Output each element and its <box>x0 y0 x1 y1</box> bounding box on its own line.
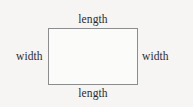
rectangle-shape <box>48 28 138 85</box>
label-left-width: width <box>16 50 43 62</box>
label-bottom-length: length <box>0 87 193 99</box>
label-right-width: width <box>142 50 169 62</box>
rectangle-diagram: length width width length <box>0 0 193 107</box>
label-top-length: length <box>0 13 193 25</box>
